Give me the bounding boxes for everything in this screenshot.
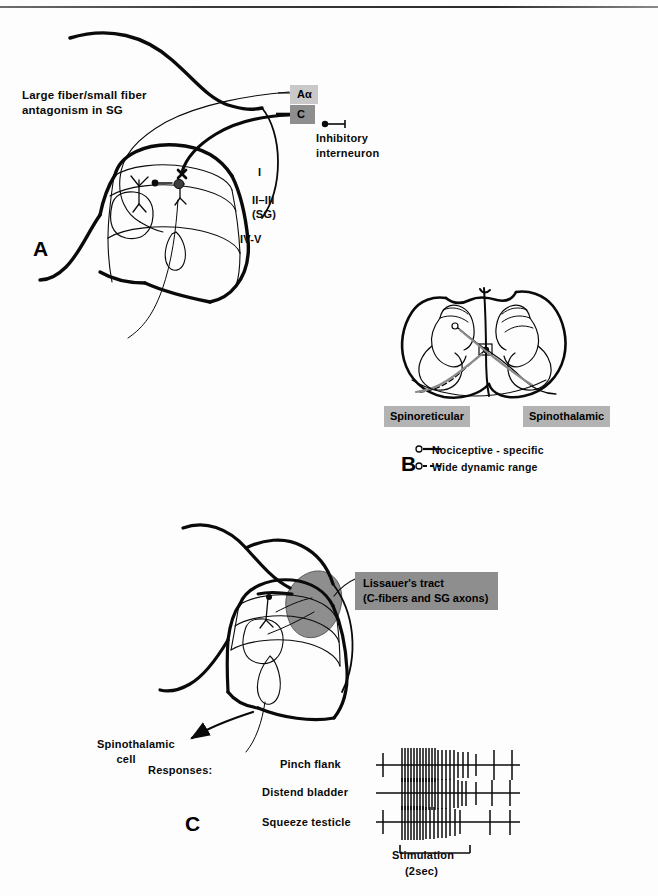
panel-a-artwork	[40, 33, 289, 338]
panel-c-spike-trains	[376, 748, 520, 853]
tract-label-spinothalamic: Spinothalamic	[523, 406, 610, 427]
response-label-pinch-flank: Pinch flank	[280, 757, 341, 772]
panel-c-artwork	[160, 525, 357, 752]
stimulation-label: Stimulation	[392, 848, 454, 863]
panel-a-title: Large fiber/small fiber antagonism in SG	[22, 88, 147, 118]
legend-marker-wide-dynamic	[416, 463, 422, 469]
lamina-label-ii-iii: II–III	[252, 193, 275, 208]
panel-b-artwork	[402, 288, 565, 398]
panel-letter-a: A	[33, 237, 48, 261]
top-rule-divider	[0, 6, 658, 8]
spinothalamic-cell-label: Spinothalamic cell	[97, 737, 175, 766]
spike-trace-pinch-flank	[376, 748, 520, 782]
panel-letter-c: C	[185, 812, 200, 836]
legend-label-nociceptive-specific: Nociceptive - specific	[432, 444, 544, 458]
lissauer-tract-label: Lissauer's tract (C-fibers and SG axons)	[355, 572, 498, 610]
figure-root: Large fiber/small fiber antagonism in SG…	[0, 0, 658, 896]
legend-marker-nociceptive	[416, 446, 422, 452]
responses-label: Responses:	[148, 763, 212, 778]
spike-trace-squeeze-testicle	[376, 806, 520, 840]
inhibitory-interneuron-label: Inhibitory interneuron	[316, 131, 379, 160]
tract-label-spinoreticular: Spinoreticular	[384, 406, 470, 427]
fiber-label-a-alpha: Aα	[290, 85, 318, 104]
lamina-label-sg: (SG)	[252, 207, 276, 222]
panel-letter-b: B	[401, 452, 416, 476]
lamina-label-i: I	[258, 165, 261, 180]
legend-label-wide-dynamic-range: Wide dynamic range	[432, 461, 538, 475]
lamina-label-iv-v: IV-V	[240, 232, 262, 247]
inhibitory-interneuron-symbol	[322, 120, 345, 128]
spike-trace-distend-bladder	[376, 778, 520, 810]
response-label-distend-bladder: Distend bladder	[262, 785, 348, 800]
stimulation-duration-label: (2sec)	[405, 864, 438, 879]
response-label-squeeze-testicle: Squeeze testicle	[262, 815, 351, 830]
fiber-label-c: C	[290, 105, 315, 124]
